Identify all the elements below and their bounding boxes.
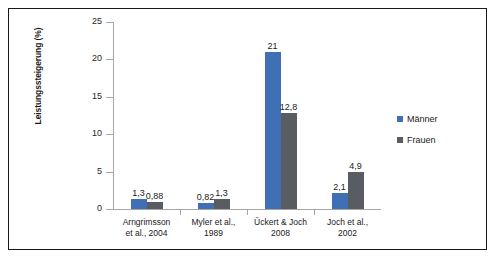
y-axis-tick-label: 5 — [97, 166, 102, 176]
y-axis-tick-label: 10 — [92, 128, 102, 138]
y-axis-tick: 0 — [106, 209, 113, 210]
figure-frame: Leistungssteigerung (%) 0510152025 1,30,… — [8, 8, 487, 250]
legend-item-label: Frauen — [407, 135, 436, 145]
bar-maenner[interactable]: 21 — [265, 52, 281, 209]
x-axis-line — [106, 209, 381, 210]
bar-value-label: 4,9 — [349, 161, 362, 171]
legend-item-frauen[interactable]: Frauen — [397, 135, 438, 145]
bar-value-label: 1,3 — [215, 188, 228, 198]
legend-item-maenner[interactable]: Männer — [397, 114, 438, 124]
x-axis-category-label: Joch et al.,2002 — [310, 217, 385, 239]
x-axis-tick — [180, 209, 181, 215]
x-axis-category-label-line: Myler et al., — [176, 217, 251, 228]
y-axis-tick: 15 — [106, 97, 113, 98]
bar-maenner[interactable]: 1,3 — [131, 199, 147, 209]
bar-maenner[interactable]: 0,82 — [198, 203, 214, 209]
bar-value-label: 0,88 — [146, 191, 164, 201]
x-axis-category-label-line: Ückert & Joch — [243, 217, 318, 228]
bar-frauen[interactable]: 12,8 — [281, 113, 297, 209]
bar-value-label: 1,3 — [132, 188, 145, 198]
x-axis-tick — [314, 209, 315, 215]
y-axis-tick-label: 0 — [97, 203, 102, 213]
x-axis-category-label-line: 2002 — [310, 228, 385, 239]
bar-chart: Leistungssteigerung (%) 0510152025 1,30,… — [9, 9, 488, 251]
y-axis-tick: 5 — [106, 172, 113, 173]
x-axis-category-label: Arngrimssonet al., 2004 — [109, 217, 184, 239]
x-axis-tick — [247, 209, 248, 215]
plot-area: 1,30,880,821,32112,82,14,9 — [113, 22, 381, 209]
legend-swatch-icon — [397, 137, 403, 143]
bar-frauen[interactable]: 1,3 — [214, 199, 230, 209]
bar-frauen[interactable]: 0,88 — [147, 202, 163, 209]
bar-value-label: 0,82 — [197, 192, 215, 202]
x-axis-category-label-line: Arngrimsson — [109, 217, 184, 228]
x-axis-category-label-line: Joch et al., — [310, 217, 385, 228]
chart-legend: MännerFrauen — [397, 114, 438, 156]
x-axis-category-label-line: 2008 — [243, 228, 318, 239]
y-axis-title: Leistungssteigerung (%) — [33, 1, 43, 151]
bar-value-label: 21 — [267, 41, 277, 51]
y-axis-tick: 10 — [106, 134, 113, 135]
y-axis-tick-label: 15 — [92, 91, 102, 101]
y-axis-tick-label: 20 — [92, 53, 102, 63]
x-axis-category-label-line: 1989 — [176, 228, 251, 239]
x-axis-category-label: Myler et al.,1989 — [176, 217, 251, 239]
bar-maenner[interactable]: 2,1 — [332, 193, 348, 209]
x-axis-category-label-line: et al., 2004 — [109, 228, 184, 239]
bar-frauen[interactable]: 4,9 — [348, 172, 364, 209]
y-axis-tick: 25 — [106, 22, 113, 23]
x-axis-category-label: Ückert & Joch2008 — [243, 217, 318, 239]
y-axis-tick-label: 25 — [92, 16, 102, 26]
legend-item-label: Männer — [407, 114, 438, 124]
y-axis-tick: 20 — [106, 59, 113, 60]
bar-value-label: 2,1 — [333, 182, 346, 192]
legend-swatch-icon — [397, 116, 403, 122]
bar-value-label: 12,8 — [280, 102, 298, 112]
